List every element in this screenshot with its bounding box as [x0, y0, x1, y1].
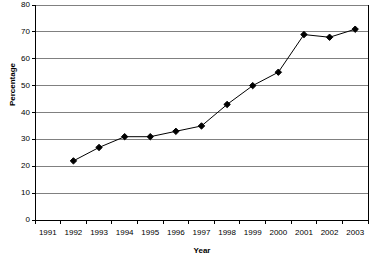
plot-area	[0, 0, 384, 263]
chart-container: Percentage 01020304050607080 19911992199…	[0, 0, 384, 263]
